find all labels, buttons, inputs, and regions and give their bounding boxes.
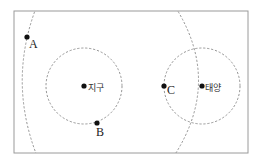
label-b: B (96, 125, 104, 139)
label-a: A (29, 37, 38, 51)
point-c (161, 83, 166, 88)
label-c: C (167, 83, 175, 97)
diagram-frame (14, 11, 248, 153)
label-earth: 지구 (88, 83, 104, 93)
large-orbit-arc-right (174, 8, 199, 156)
point-sun (199, 83, 204, 88)
label-sun: 태양 (205, 83, 221, 93)
large-orbit-arc-left (22, 8, 37, 156)
point-earth (81, 83, 86, 88)
orbit-diagram: A 지구 B C 태양 (0, 0, 259, 167)
